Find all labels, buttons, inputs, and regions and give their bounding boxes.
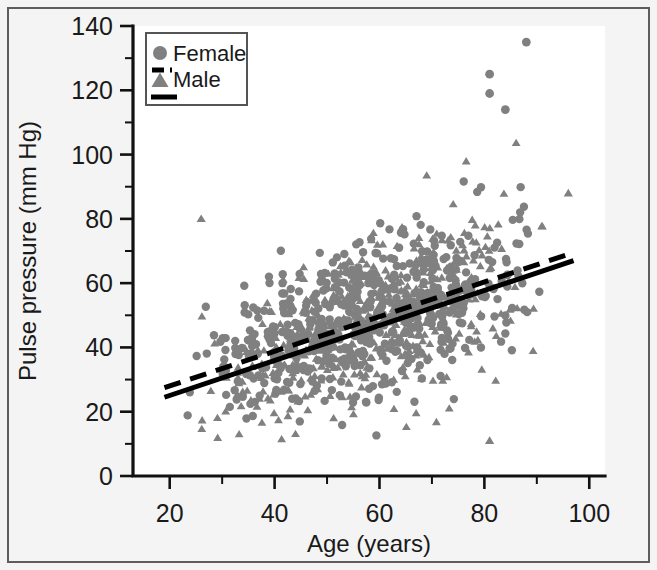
data-point-circle	[362, 398, 370, 406]
legend-female-circle-icon	[153, 46, 167, 60]
y-axis-ticks	[120, 26, 133, 476]
data-point-circle	[202, 302, 210, 310]
y-tick-label: 100	[71, 141, 113, 169]
data-point-circle	[513, 266, 521, 274]
data-point-circle	[380, 373, 388, 381]
data-point-circle	[493, 295, 501, 303]
data-point-circle	[416, 221, 424, 229]
data-point-circle	[372, 431, 380, 439]
data-point-circle	[222, 391, 230, 399]
data-point-circle	[220, 355, 228, 363]
data-point-circle	[338, 421, 346, 429]
x-axis-title: Age (years)	[307, 530, 431, 557]
data-point-circle	[253, 306, 261, 314]
y-tick-label: 20	[85, 398, 113, 426]
data-point-circle	[245, 336, 253, 344]
x-tick-label: 20	[156, 499, 184, 527]
data-point-circle	[340, 250, 348, 258]
data-point-circle	[535, 288, 543, 296]
data-point-circle	[241, 301, 249, 309]
data-point-circle	[254, 314, 262, 322]
data-point-circle	[412, 212, 420, 220]
data-point-circle	[221, 346, 229, 354]
data-point-circle	[515, 240, 523, 248]
figure-container: 020406080100120140 20406080100 Age (year…	[0, 0, 657, 570]
data-point-circle	[385, 225, 393, 233]
data-point-circle	[393, 262, 401, 270]
x-tick-label: 100	[568, 499, 610, 527]
data-point-circle	[314, 304, 322, 312]
data-point-circle	[446, 274, 454, 282]
data-point-circle	[352, 240, 360, 248]
data-point-circle	[374, 396, 382, 404]
data-point-circle	[329, 258, 337, 266]
data-point-circle	[316, 249, 324, 257]
data-point-circle	[340, 278, 348, 286]
data-point-circle	[462, 268, 470, 276]
data-point-circle	[450, 395, 458, 403]
data-point-circle	[523, 308, 531, 316]
data-point-circle	[481, 293, 489, 301]
data-point-circle	[509, 216, 517, 224]
data-point-circle	[501, 105, 510, 114]
legend[interactable]: Female Male	[146, 33, 247, 105]
data-point-circle	[522, 38, 531, 47]
data-point-circle	[460, 177, 468, 185]
data-point-circle	[477, 183, 485, 191]
scatter-plot: 020406080100120140 20406080100 Age (year…	[0, 0, 657, 570]
data-point-circle	[426, 225, 434, 233]
data-point-circle	[448, 356, 456, 364]
y-tick-label: 120	[71, 76, 113, 104]
data-point-circle	[365, 385, 373, 393]
y-tick-label: 0	[99, 462, 113, 490]
data-point-circle	[277, 247, 285, 255]
data-point-circle	[520, 203, 528, 211]
data-point-circle	[264, 328, 272, 336]
data-point-circle	[393, 388, 401, 396]
y-axis-tick-labels: 020406080100120140	[71, 12, 113, 490]
data-point-circle	[485, 70, 494, 79]
data-point-circle	[387, 254, 395, 262]
x-axis-ticks	[170, 476, 590, 489]
legend-label-female: Female	[173, 41, 246, 66]
y-axis-title: Pulse pressure (mm Hg)	[14, 121, 41, 381]
data-point-circle	[501, 329, 509, 337]
data-point-circle	[522, 226, 530, 234]
data-point-circle	[192, 352, 200, 360]
legend-label-male: Male	[173, 67, 221, 92]
y-tick-label: 60	[85, 269, 113, 297]
data-point-circle	[434, 284, 442, 292]
data-point-circle	[279, 304, 287, 312]
y-tick-label: 80	[85, 205, 113, 233]
data-point-circle	[210, 331, 218, 339]
data-point-circle	[410, 398, 418, 406]
data-point-circle	[485, 89, 494, 98]
x-axis-tick-labels: 20406080100	[156, 499, 610, 527]
data-point-circle	[265, 279, 273, 287]
data-point-circle	[203, 349, 211, 357]
data-point-circle	[240, 281, 248, 289]
data-point-circle	[219, 334, 227, 342]
data-point-circle	[376, 219, 384, 227]
x-tick-label: 40	[261, 499, 289, 527]
data-point-circle	[485, 256, 493, 264]
data-point-circle	[516, 183, 524, 191]
data-point-circle	[249, 412, 257, 420]
data-point-circle	[379, 254, 387, 262]
data-point-circle	[442, 253, 450, 261]
data-point-circle	[458, 319, 466, 327]
data-point-circle	[296, 417, 304, 425]
data-point-circle	[508, 346, 516, 354]
data-point-circle	[183, 411, 191, 419]
data-point-circle	[359, 248, 367, 256]
x-tick-label: 80	[470, 499, 498, 527]
data-point-circle	[337, 377, 345, 385]
data-point-circle	[502, 255, 510, 263]
data-point-circle	[328, 386, 336, 394]
data-point-circle	[440, 350, 448, 358]
y-tick-label: 140	[71, 12, 113, 40]
data-point-circle	[280, 289, 288, 297]
x-tick-label: 60	[366, 499, 394, 527]
y-tick-label: 40	[85, 333, 113, 361]
data-point-circle	[295, 287, 303, 295]
